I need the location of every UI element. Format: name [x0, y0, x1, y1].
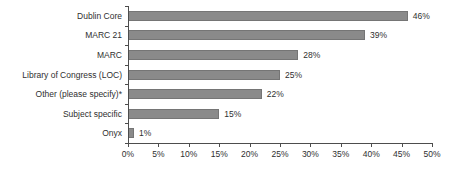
bar [128, 11, 408, 21]
x-tick-label: 5% [152, 150, 164, 159]
value-label: 25% [285, 70, 302, 80]
value-label: 15% [224, 109, 241, 119]
y-axis-tick [125, 65, 128, 66]
x-tick-label: 35% [332, 150, 349, 159]
value-label: 46% [413, 11, 430, 21]
x-axis-tick [219, 144, 220, 147]
value-label: 1% [139, 128, 151, 138]
value-label: 28% [303, 50, 320, 60]
x-axis-tick [371, 144, 372, 147]
x-tick-label: 15% [211, 150, 228, 159]
x-axis-tick [310, 144, 311, 147]
category-label: MARC [0, 50, 122, 60]
bar [128, 89, 262, 99]
x-tick-label: 45% [393, 150, 410, 159]
y-axis-tick [125, 123, 128, 124]
x-axis-tick [432, 144, 433, 147]
category-label: MARC 21 [0, 30, 122, 40]
y-axis-tick [125, 45, 128, 46]
bar-chart: Dublin Core46%MARC 2139%MARC28%Library o… [0, 0, 462, 173]
x-axis-tick [341, 144, 342, 147]
x-tick-label: 20% [241, 150, 258, 159]
category-label: Onyx [0, 128, 122, 138]
bar [128, 30, 365, 40]
bar [128, 109, 219, 119]
y-axis-tick [125, 6, 128, 7]
category-label: Dublin Core [0, 11, 122, 21]
x-axis-tick [128, 144, 129, 147]
value-label: 22% [267, 89, 284, 99]
category-label: Other (please specify)* [0, 89, 122, 99]
x-tick-label: 30% [302, 150, 319, 159]
value-label: 39% [370, 30, 387, 40]
x-tick-label: 0% [122, 150, 134, 159]
category-label: Subject specific [0, 109, 122, 119]
x-tick-label: 40% [363, 150, 380, 159]
x-axis-tick [402, 144, 403, 147]
x-tick-label: 25% [271, 150, 288, 159]
x-axis-tick [158, 144, 159, 147]
y-axis-tick [125, 104, 128, 105]
y-axis-line [128, 6, 129, 144]
x-tick-label: 50% [423, 150, 440, 159]
bar [128, 70, 280, 80]
y-axis-tick [125, 84, 128, 85]
category-label: Library of Congress (LOC) [0, 70, 122, 80]
x-axis-tick [189, 144, 190, 147]
bar [128, 50, 298, 60]
y-axis-tick [125, 26, 128, 27]
x-tick-label: 10% [180, 150, 197, 159]
x-axis-tick [280, 144, 281, 147]
x-axis-tick [250, 144, 251, 147]
